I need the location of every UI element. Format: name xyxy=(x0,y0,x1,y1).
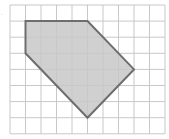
shaded-polygon xyxy=(26,21,135,118)
grid-diagram xyxy=(0,0,169,139)
